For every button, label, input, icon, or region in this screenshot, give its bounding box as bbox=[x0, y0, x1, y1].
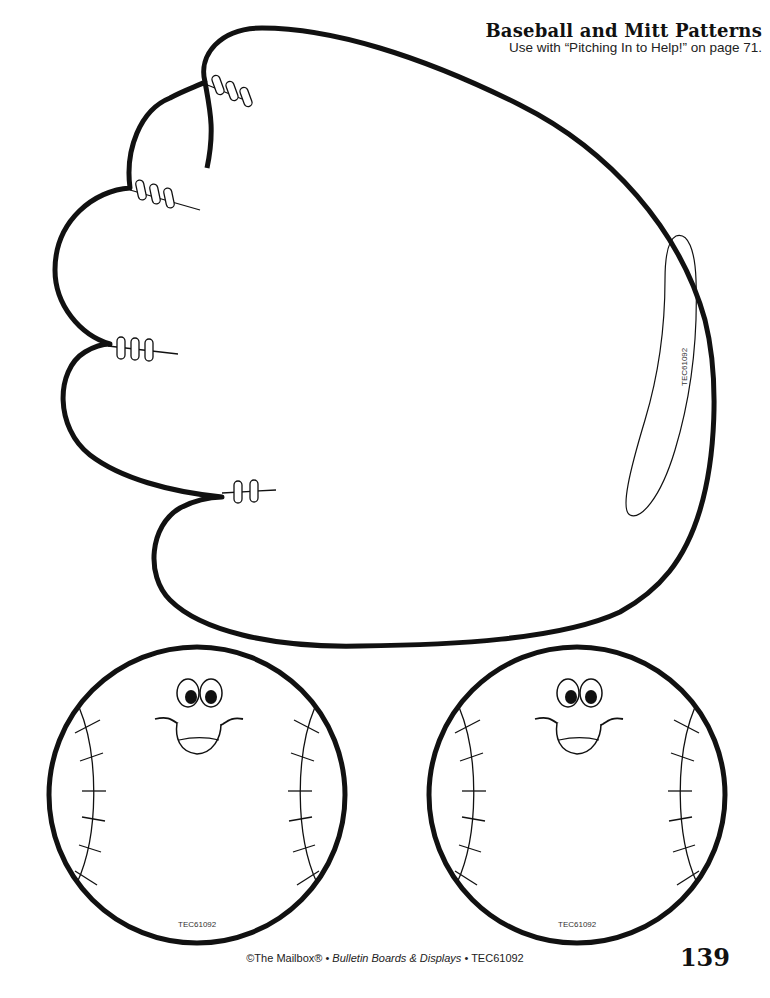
baseball-2-code: TEC61092 bbox=[558, 920, 596, 929]
mitt-code: TEC61092 bbox=[680, 348, 689, 386]
baseball-pattern-1 bbox=[49, 647, 345, 943]
footer-copyright: ©The Mailbox® • bbox=[246, 952, 332, 964]
pattern-artwork bbox=[0, 0, 770, 998]
lacing-lower bbox=[222, 480, 276, 503]
footer-code: • TEC61092 bbox=[461, 952, 523, 964]
footer-credit: ©The Mailbox® • Bulletin Boards & Displa… bbox=[0, 952, 770, 964]
mitt-pattern bbox=[55, 28, 714, 646]
lacing-top bbox=[205, 74, 253, 108]
baseball-pattern-2 bbox=[429, 647, 725, 943]
page-number: 139 bbox=[680, 943, 730, 972]
lacing-upper bbox=[130, 179, 200, 210]
baseball-1-code: TEC61092 bbox=[178, 920, 216, 929]
lacing-middle bbox=[108, 337, 178, 361]
mitt-outline bbox=[55, 28, 714, 646]
footer-publication: Bulletin Boards & Displays bbox=[332, 952, 461, 964]
